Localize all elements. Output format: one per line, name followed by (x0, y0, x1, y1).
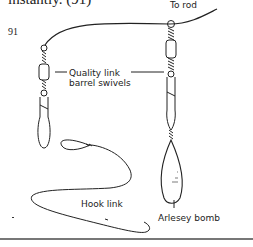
label-quality-swivels: Quality link barrel swivels (69, 68, 131, 88)
label-to-rod: To rod (170, 0, 197, 10)
left-swivel-assembly (38, 45, 50, 148)
page-divider (0, 238, 253, 240)
label-quality-line1: Quality link (69, 68, 131, 78)
label-quality-line2: barrel swivels (69, 78, 131, 88)
label-arlesey-bomb: Arlesey bomb (158, 213, 220, 223)
rig-illustration (0, 0, 253, 247)
right-swivel-assembly (161, 21, 182, 209)
hook-link-line (31, 140, 149, 233)
label-hook-link: Hook link (81, 199, 123, 209)
stray-mark (12, 217, 14, 218)
main-line (45, 9, 217, 45)
